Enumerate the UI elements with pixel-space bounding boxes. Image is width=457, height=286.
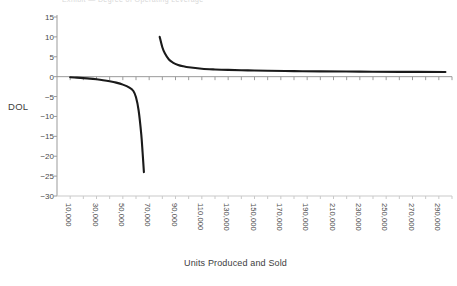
data-series (70, 37, 445, 172)
x-axis-title: Units Produced and Sold (0, 258, 457, 268)
plot-area (0, 0, 457, 286)
axis-ticks (54, 17, 453, 199)
axis-lines (57, 15, 452, 196)
chart-container: Exhibit — Degree of Operating Leverage D… (0, 0, 457, 286)
x-axis-title-text: Units Produced and Sold (170, 258, 287, 268)
